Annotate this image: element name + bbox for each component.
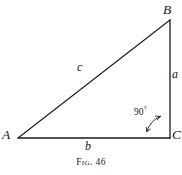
side-label-a: a — [172, 68, 178, 80]
figure-container: A B C a b c 90° Fig. 46 — [0, 0, 182, 175]
figure-caption: Fig. 46 — [0, 157, 182, 167]
side-c-hypotenuse-line — [18, 20, 170, 138]
side-label-b: b — [85, 140, 91, 152]
degree-symbol: ° — [144, 105, 147, 113]
right-triangle-diagram — [0, 0, 182, 175]
vertex-label-b: B — [163, 3, 171, 17]
right-angle-value: 90 — [134, 107, 144, 117]
vertex-label-c: C — [172, 128, 181, 142]
vertex-label-a: A — [2, 128, 10, 142]
side-label-c: c — [77, 61, 82, 73]
right-angle-label: 90° — [134, 106, 147, 118]
